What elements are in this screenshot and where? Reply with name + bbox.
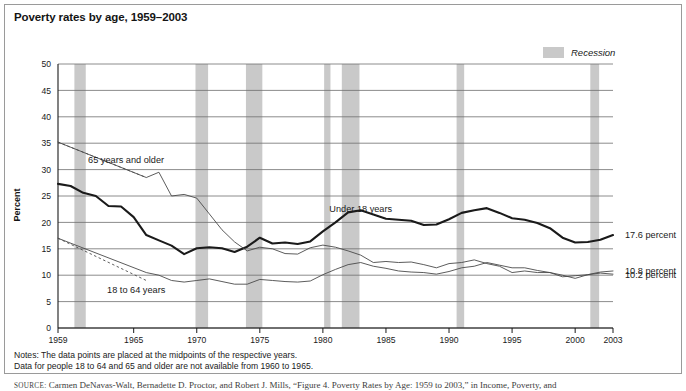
y-axis-title: Percent	[12, 188, 22, 221]
svg-text:1990: 1990	[439, 335, 458, 345]
svg-text:10.2 percent: 10.2 percent	[625, 270, 677, 280]
chart-plot: 05101520253035404550 1959196519701975198…	[0, 0, 686, 391]
svg-text:1985: 1985	[376, 335, 395, 345]
svg-text:40: 40	[41, 112, 51, 122]
figure-root: Poverty rates by age, 1959–2003 Recessio…	[0, 0, 686, 391]
svg-text:1980: 1980	[313, 335, 332, 345]
svg-text:2000: 2000	[566, 335, 585, 345]
svg-text:1970: 1970	[187, 335, 206, 345]
end-labels: 17.6 percent10.8 percent10.2 percent	[625, 230, 677, 279]
y-axis: 05101520253035404550	[41, 59, 58, 333]
source-text: Carmen DeNavas-Walt, Bernadette D. Proct…	[49, 380, 557, 390]
svg-text:10: 10	[41, 270, 51, 280]
svg-text:1959: 1959	[48, 335, 67, 345]
svg-text:Under 18 years: Under 18 years	[329, 204, 392, 214]
figure-notes: Notes: The data points are placed at the…	[14, 350, 313, 371]
notes-line-1: Notes: The data points are placed at the…	[14, 350, 313, 361]
figure-source: SOURCE: Carmen DeNavas-Walt, Bernadette …	[14, 380, 686, 390]
notes-line-2: Data for people 18 to 64 and 65 and olde…	[14, 361, 313, 372]
svg-text:25: 25	[41, 191, 51, 201]
svg-text:1975: 1975	[250, 335, 269, 345]
svg-text:30: 30	[41, 165, 51, 175]
svg-text:5: 5	[46, 297, 51, 307]
svg-text:1995: 1995	[503, 335, 522, 345]
svg-text:1965: 1965	[124, 335, 143, 345]
svg-text:20: 20	[41, 218, 51, 228]
svg-text:17.6 percent: 17.6 percent	[625, 230, 677, 240]
svg-text:2003: 2003	[603, 335, 622, 345]
svg-text:45: 45	[41, 86, 51, 96]
svg-text:35: 35	[41, 138, 51, 148]
x-axis: 1959196519701975198019851990199520002003	[48, 328, 622, 345]
source-prefix: SOURCE:	[14, 382, 46, 390]
svg-text:65 years and older: 65 years and older	[88, 155, 164, 165]
svg-text:50: 50	[41, 59, 51, 69]
svg-text:15: 15	[41, 244, 51, 254]
svg-text:18 to 64 years: 18 to 64 years	[107, 285, 166, 295]
svg-text:0: 0	[46, 323, 51, 333]
